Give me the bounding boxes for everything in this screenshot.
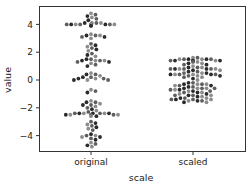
data-point <box>98 59 102 63</box>
data-point <box>187 66 191 70</box>
data-point <box>72 78 76 82</box>
data-point <box>174 98 178 102</box>
data-point <box>169 88 173 92</box>
data-point <box>94 73 98 77</box>
data-point <box>213 86 217 90</box>
data-point <box>218 68 222 72</box>
data-point <box>86 45 90 49</box>
data-point <box>205 82 209 86</box>
data-point <box>214 59 218 63</box>
data-point <box>90 52 94 56</box>
data-point <box>191 73 195 77</box>
data-point <box>80 59 84 63</box>
data-point <box>178 92 182 96</box>
data-point <box>112 113 116 117</box>
data-point <box>90 46 94 50</box>
data-point <box>95 114 99 118</box>
data-point <box>94 121 98 125</box>
data-point <box>209 73 213 77</box>
data-point <box>89 75 93 79</box>
data-point <box>200 99 204 103</box>
data-point <box>94 100 98 104</box>
data-point <box>85 100 89 104</box>
data-point <box>106 78 110 82</box>
data-point <box>103 35 107 39</box>
data-point <box>89 88 93 92</box>
data-point <box>191 93 195 97</box>
data-point <box>89 24 93 28</box>
data-point <box>98 34 102 38</box>
data-point <box>196 74 200 78</box>
data-point <box>196 91 200 95</box>
data-point <box>200 91 204 95</box>
data-point <box>191 85 195 89</box>
data-point <box>196 56 200 60</box>
data-point <box>98 74 102 78</box>
data-point <box>89 36 93 40</box>
data-point <box>86 78 90 82</box>
data-point <box>116 113 120 117</box>
y-tick-label: 2 <box>27 47 33 57</box>
data-point <box>209 67 213 71</box>
data-point <box>187 81 191 85</box>
data-point <box>178 57 182 61</box>
data-point <box>94 134 98 138</box>
data-point <box>89 61 93 65</box>
data-point <box>169 67 173 71</box>
data-point <box>85 57 89 61</box>
data-point <box>95 109 99 113</box>
data-point <box>89 57 93 61</box>
data-point <box>94 43 98 47</box>
y-tick-label: −4 <box>20 131 34 141</box>
y-tick-label: −2 <box>20 103 33 113</box>
data-point <box>200 75 204 79</box>
data-point <box>191 64 195 68</box>
data-point <box>196 78 200 82</box>
data-point <box>94 142 98 146</box>
data-point <box>200 61 204 65</box>
data-point <box>77 77 81 81</box>
data-point <box>77 111 81 115</box>
data-point <box>178 67 182 71</box>
data-point <box>205 63 209 67</box>
data-point <box>89 132 93 136</box>
data-point <box>205 96 209 100</box>
data-point <box>196 70 200 74</box>
data-point <box>107 111 111 115</box>
data-point <box>98 135 102 139</box>
data-point <box>209 57 213 61</box>
data-point <box>95 21 99 25</box>
data-point <box>191 98 195 102</box>
data-point <box>90 16 94 20</box>
x-axis-ticks: originalscaled <box>74 152 207 168</box>
data-point <box>98 111 102 115</box>
data-point <box>86 91 90 95</box>
data-point <box>169 59 173 63</box>
data-point <box>200 57 204 61</box>
data-point <box>187 85 191 89</box>
data-point <box>200 71 204 75</box>
data-point <box>170 98 174 102</box>
data-point <box>183 96 187 100</box>
data-point <box>182 57 186 61</box>
data-point <box>65 23 69 27</box>
data-point <box>89 103 93 107</box>
data-point <box>86 49 90 53</box>
x-axis-label: scale <box>129 172 154 183</box>
data-point <box>86 14 90 18</box>
data-point <box>187 57 191 61</box>
data-point <box>78 23 82 27</box>
data-point <box>94 59 98 63</box>
data-point <box>94 63 98 67</box>
data-point <box>178 84 182 88</box>
y-axis-ticks: 420−2−4 <box>20 20 40 141</box>
data-point <box>81 75 85 79</box>
data-point <box>205 57 209 61</box>
data-point <box>196 99 200 103</box>
data-point <box>173 67 177 71</box>
data-point <box>98 102 102 106</box>
data-point <box>196 60 200 64</box>
data-point <box>69 23 73 27</box>
data-point <box>182 71 186 75</box>
data-point <box>83 21 87 25</box>
